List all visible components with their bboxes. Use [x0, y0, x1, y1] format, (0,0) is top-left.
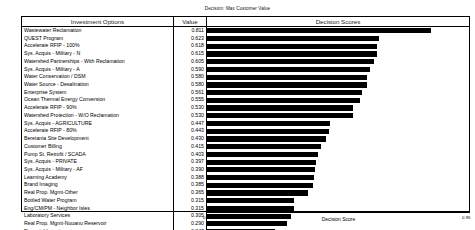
- score-bar: [207, 82, 367, 87]
- column-header-value: Value: [174, 17, 207, 26]
- decision-value: 0.811: [174, 27, 207, 35]
- investment-option-label: Eng/CM/PM - Neighbor Isles: [22, 205, 174, 213]
- score-bar: [207, 113, 353, 118]
- investment-option-label: Sys. Acquis - AGRICULTURE: [22, 120, 174, 128]
- bar-cell: [207, 112, 469, 120]
- score-bar: [207, 136, 326, 141]
- table-row: Sys. Acquis - AGRICULTURE0.447: [22, 120, 469, 128]
- investment-option-label: Beretania Site Development: [22, 135, 174, 143]
- investment-option-label: Pump St. Retrofit / SCADA: [22, 151, 174, 159]
- table-row: Real Prop. Mgmt-Other0.365: [22, 189, 469, 197]
- score-bar: [207, 98, 360, 103]
- bar-cell: [207, 104, 469, 112]
- decision-value: 0.530: [174, 104, 207, 112]
- investment-option-label: Watershed Partnerships - With Reclamatio…: [22, 58, 174, 66]
- table-row: Enterprise System0.561: [22, 89, 469, 97]
- table-row: Accelerate RFIP - 80%0.443: [22, 127, 469, 135]
- bar-cell: [207, 35, 469, 43]
- table-row: Learning Academy0.388: [22, 174, 469, 182]
- score-bar: [207, 44, 377, 49]
- bar-cell: [207, 127, 469, 135]
- decision-value: 0.443: [174, 127, 207, 135]
- decision-value: 0.615: [174, 50, 207, 58]
- investment-option-label: Water Source - Desalination: [22, 81, 174, 89]
- axis-tick-min: [207, 208, 208, 212]
- table-row: Sys. Acquis - Military - AF0.390: [22, 166, 469, 174]
- investment-option-label: Real Prop. Mgmt-Nuuanu Reservoir: [22, 220, 174, 228]
- bar-cell: [207, 73, 469, 81]
- investment-option-label: Bottled Water Program: [22, 197, 174, 205]
- axis-line: [207, 212, 470, 213]
- bar-cell: [207, 189, 469, 197]
- score-bar: [207, 67, 370, 72]
- score-bar: [207, 167, 315, 172]
- table-row: Watershed Partnerships - With Reclamatio…: [22, 58, 469, 66]
- table-row: Bottled Water Program0.315: [22, 197, 469, 205]
- table-row: Wastewater Reclamation0.811: [22, 27, 469, 35]
- decision-value: 0.385: [174, 181, 207, 189]
- bar-cell: [207, 174, 469, 182]
- table-row: Sys. Acquis - PRIVATE0.397: [22, 158, 469, 166]
- decision-value: 0.555: [174, 96, 207, 104]
- investment-option-label: Sys. Acquis - Military - AF: [22, 166, 174, 174]
- score-bar: [207, 183, 313, 188]
- decision-scores-table: Investment Options Value Decision Scores…: [21, 16, 470, 212]
- investment-option-label: Brand Imaging: [22, 181, 174, 189]
- investment-option-label: Sys. Acquis - Military - A: [22, 66, 174, 74]
- decision-value: 0.247: [174, 228, 207, 230]
- investment-option-label: Customer Billing: [22, 143, 174, 151]
- score-bar: [207, 144, 321, 149]
- bar-cell: [207, 181, 469, 189]
- decision-value: 0.390: [174, 166, 207, 174]
- bar-cell: [207, 66, 469, 74]
- decision-value: 0.430: [174, 135, 207, 143]
- score-bar: [207, 51, 377, 56]
- bar-cell: [207, 89, 469, 97]
- score-bar: [207, 121, 330, 126]
- bar-cell: [207, 158, 469, 166]
- investment-option-label: Wastewater Reclamation: [22, 27, 174, 35]
- decision-value: 0.397: [174, 158, 207, 166]
- bar-cell: [207, 81, 469, 89]
- table-row: Beretania Site Development0.430: [22, 135, 469, 143]
- score-bar: [207, 59, 374, 64]
- score-bar: [207, 198, 294, 203]
- bar-cell: [207, 135, 469, 143]
- table-row: Accelerate RFIP - 100%0.618: [22, 42, 469, 50]
- investment-option-label: Accelerate RFIP - 100%: [22, 42, 174, 50]
- decision-value: 0.618: [174, 42, 207, 50]
- decision-value: 0.590: [174, 66, 207, 74]
- investment-option-label: Financial Investments: [22, 228, 174, 230]
- x-axis: 0.00 0.95 Decision Score: [207, 212, 470, 230]
- decision-value: 0.623: [174, 35, 207, 43]
- table-row: Watershed Protection - W/O Reclamation0.…: [22, 112, 469, 120]
- decision-value: 0.365: [174, 189, 207, 197]
- decision-value: 0.403: [174, 151, 207, 159]
- investment-option-label: Watershed Protection - W/O Reclamation: [22, 112, 174, 120]
- table-row: Sys. Acquis - Military - N0.615: [22, 50, 469, 58]
- decision-value: 0.388: [174, 174, 207, 182]
- decision-value: 0.315: [174, 197, 207, 205]
- score-bar: [207, 160, 316, 165]
- table-row: Water Source - Desalination0.580: [22, 81, 469, 89]
- table-row: Accelerate RFIP - 90%0.530: [22, 104, 469, 112]
- table-header-row: Investment Options Value Decision Scores: [22, 17, 469, 27]
- table-row: Customer Billing0.415: [22, 143, 469, 151]
- axis-tick-max: [469, 208, 470, 212]
- investment-option-label: Real Prop. Mgmt-Other: [22, 189, 174, 197]
- column-header-investment-options: Investment Options: [22, 17, 174, 26]
- table-row: Pump St. Retrofit / SCADA0.403: [22, 151, 469, 159]
- score-bar: [207, 190, 308, 195]
- bar-cell: [207, 50, 469, 58]
- bar-cell: [207, 143, 469, 151]
- investment-option-label: QUEST Program: [22, 35, 174, 43]
- decision-value: 0.580: [174, 73, 207, 81]
- score-bar: [207, 129, 329, 134]
- decision-value: 0.605: [174, 58, 207, 66]
- decision-value: 0.290: [174, 220, 207, 228]
- decision-value: 0.561: [174, 89, 207, 97]
- investment-option-label: Sys. Acquis - Military - N: [22, 50, 174, 58]
- score-bar: [207, 36, 379, 41]
- chart-title: Decision: Max Customer Value: [0, 6, 475, 11]
- table-body: Wastewater Reclamation0.811QUEST Program…: [22, 27, 469, 212]
